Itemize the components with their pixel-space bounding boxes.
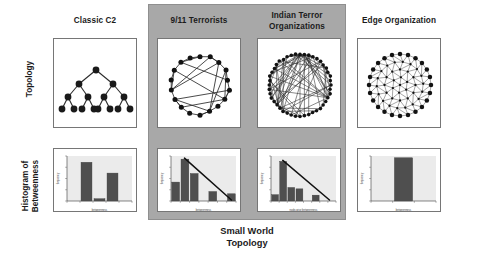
svg-text:betweenness: betweenness	[196, 208, 212, 212]
column-title-classic-c2: Classic C2	[52, 16, 138, 27]
svg-text:frequency: frequency	[260, 172, 264, 184]
classic-c2-tree-graph	[54, 39, 137, 128]
svg-text:frequency: frequency	[160, 172, 164, 184]
svg-text:betweenness: betweenness	[92, 208, 108, 212]
histogram-cell-nine-eleven: betweennessfrequency	[157, 148, 241, 212]
edge-organization-histogram-chart: betweennessfrequency	[358, 149, 441, 212]
group-caption-small-world-topology: Small World Topology	[182, 226, 312, 249]
classic-c2-histogram-chart: betweennessfrequency	[54, 149, 137, 212]
svg-text:betweenness: betweenness	[396, 208, 412, 212]
row-label-topology: Topology	[25, 43, 35, 115]
svg-text:node-wise betweenness: node-wise betweenness	[290, 208, 319, 212]
topology-cell-indian-terror	[257, 38, 341, 128]
svg-text:frequency: frequency	[360, 172, 364, 184]
histogram-cell-classic-c2: betweennessfrequency	[53, 148, 137, 212]
topology-cell-classic-c2	[53, 38, 137, 128]
histogram-cell-edge-organization: betweennessfrequency	[357, 148, 441, 212]
nine-eleven-circular-graph	[158, 39, 241, 128]
column-title-indian-terror: Indian Terror Organizations	[252, 11, 342, 32]
histogram-cell-indian-terror: node-wise betweennessfrequency	[257, 148, 341, 212]
column-title-edge-organization: Edge Organization	[352, 16, 446, 27]
row-label-histogram-of-betweenness: Histogram of Betweenness	[21, 149, 41, 223]
indian-terror-circular-graph	[258, 39, 341, 128]
topology-cell-edge-organization	[357, 38, 441, 128]
nine-eleven-histogram-chart: betweennessfrequency	[158, 149, 241, 212]
indian-terror-histogram-chart: node-wise betweennessfrequency	[258, 149, 341, 212]
column-title-nine-eleven: 9/11 Terrorists	[155, 16, 243, 27]
figure-root: Classic C2 9/11 Terrorists Indian Terror…	[0, 0, 486, 259]
svg-text:frequency: frequency	[56, 172, 60, 184]
edge-organization-mesh-graph	[358, 39, 441, 128]
topology-cell-nine-eleven	[157, 38, 241, 128]
